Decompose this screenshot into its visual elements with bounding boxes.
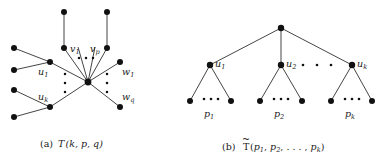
ellipsis-dot [280, 98, 283, 101]
node-leaf-p2-first [257, 98, 263, 104]
ellipsis-pk-row [344, 98, 361, 101]
panel-a-nodes [11, 9, 123, 120]
edge-hub-uk [50, 82, 88, 107]
node-u1 [47, 59, 53, 65]
figure-canvas: u1 uk v1 vp w1 wq (a)T(k, p, q) [0, 0, 388, 161]
panel-b-labels: u1 u2 uk p1 p2 pk [204, 58, 367, 121]
node-leaf-pk-last [369, 98, 375, 104]
panel-b-caption: (b) T ~ (p1, p2, . . . , pk) [222, 133, 324, 154]
panel-a-graph: u1 uk v1 vp w1 wq (a)T(k, p, q) [11, 9, 134, 149]
ellipsis-dot [64, 91, 67, 94]
figure-root: u1 uk v1 vp w1 wq (a)T(k, p, q) [0, 0, 388, 161]
ellipsis-w-column [106, 73, 109, 94]
ellipsis-dot [64, 73, 67, 76]
edge-uk-leaf-b [352, 65, 372, 101]
node-uk-leaf-a [11, 87, 17, 93]
node-u2 [278, 62, 284, 68]
ellipsis-dot [217, 98, 220, 101]
label-u2: u2 [286, 58, 296, 71]
node-uk [47, 104, 53, 110]
label-u1: u1 [215, 58, 225, 71]
edge-hub-u1 [50, 62, 88, 82]
ellipsis-v-row [78, 57, 95, 60]
label-v1: v1 [70, 43, 80, 56]
edge-u2-leaf-a [260, 65, 281, 101]
caption-a-text: (a)T(k, p, q) [40, 138, 103, 149]
label-wq: wq [122, 91, 134, 104]
ellipsis-dot [64, 82, 67, 85]
ellipsis-u-column [64, 73, 67, 94]
edge-u1-leaf-a [14, 48, 50, 62]
node-leaf-pk-first [328, 98, 334, 104]
node-vp [104, 45, 110, 51]
ellipsis-dot [106, 82, 109, 85]
label-p1: p1 [204, 108, 214, 121]
ellipsis-dot [78, 57, 81, 60]
label-u1: u1 [38, 66, 48, 79]
node-u1-leaf-a [11, 45, 17, 51]
ellipsis-dot [351, 98, 354, 101]
node-leaf-p1-last [228, 98, 234, 104]
panel-a-caption: (a)T(k, p, q) [40, 138, 103, 149]
ellipsis-dot [106, 91, 109, 94]
ellipsis-p2-row [273, 98, 290, 101]
ellipsis-dot [344, 98, 347, 101]
node-leaf-p1-first [187, 98, 193, 104]
panel-b-ellipses [203, 64, 361, 101]
node-u1 [207, 62, 213, 68]
edge-hub-w1 [88, 62, 120, 82]
node-leaf-p2-last [299, 98, 305, 104]
ellipsis-p1-row [203, 98, 220, 101]
node-u1-leaf-b [11, 67, 17, 73]
ellipsis-dot [210, 98, 213, 101]
caption-b-args: (p1, p2, . . . , pk) [250, 141, 324, 154]
ellipsis-dot [316, 64, 319, 67]
label-p2: p2 [274, 108, 284, 121]
ellipsis-dot [330, 64, 333, 67]
edge-u1-leaf-b [14, 62, 50, 70]
ellipsis-u-row [302, 64, 333, 67]
node-hub [85, 79, 92, 86]
node-w1 [117, 59, 123, 65]
node-v1-leaf [61, 9, 67, 15]
panel-a-edges [14, 12, 120, 117]
node-v1 [61, 45, 67, 51]
ellipsis-dot [358, 98, 361, 101]
ellipsis-dot [85, 57, 88, 60]
label-vp: vp [90, 43, 100, 56]
ellipsis-dot [302, 64, 305, 67]
ellipsis-dot [92, 57, 95, 60]
node-vp-leaf [104, 9, 110, 15]
ellipsis-dot [273, 98, 276, 101]
panel-b-graph: u1 u2 uk p1 p2 pk (b) T ~ (p1, p2, . . .… [187, 25, 375, 155]
ellipsis-dot [287, 98, 290, 101]
node-uk [349, 62, 355, 68]
ellipsis-dot [106, 73, 109, 76]
ellipsis-dot [203, 98, 206, 101]
edge-uk-leaf-b [14, 107, 50, 117]
tilde-accent-icon: ~ [242, 133, 250, 144]
edge-u1-leaf-a [190, 65, 210, 101]
node-uk-leaf-b [11, 114, 17, 120]
edge-hub-wq [88, 82, 120, 107]
label-uk: uk [357, 58, 367, 71]
node-root [278, 25, 284, 31]
caption-b-prefix: (b) [222, 141, 236, 152]
node-wq [117, 104, 123, 110]
edge-uk-leaf-a [331, 65, 352, 101]
label-w1: w1 [122, 66, 134, 79]
label-pk: pk [345, 108, 355, 121]
panel-a-labels: u1 uk v1 vp w1 wq [38, 43, 134, 104]
